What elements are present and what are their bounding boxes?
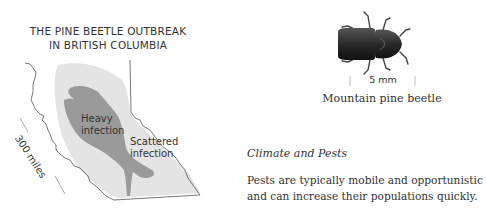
map-title-line1: THE PINE BEETLE OUTBREAK <box>28 24 188 38</box>
section-heading: Climate and Pests <box>247 147 347 160</box>
heavy-label-line2: infection <box>81 125 124 137</box>
beetle-icon <box>328 8 428 80</box>
heavy-label-line1: Heavy <box>81 113 124 125</box>
scattered-infection-label: Scattered infection <box>130 136 178 160</box>
map-title: THE PINE BEETLE OUTBREAK IN BRITISH COLU… <box>28 24 188 52</box>
scale-bar-upper <box>20 118 28 132</box>
heavy-infection-label: Heavy infection <box>81 113 124 137</box>
paragraph-line1: Pests are typically mobile and opportuni… <box>247 172 487 188</box>
scattered-label-line1: Scattered <box>130 136 178 148</box>
paragraph-line2: and can increase their populations quick… <box>247 188 487 204</box>
beetle-scale-label: 5 mm <box>352 74 414 85</box>
beetle-illustration <box>328 8 428 84</box>
body-paragraph: Pests are typically mobile and opportuni… <box>247 172 487 204</box>
scale-bar-lower <box>55 176 65 194</box>
map-graphic <box>0 55 250 218</box>
map-title-line2: IN BRITISH COLUMBIA <box>28 38 188 52</box>
scattered-label-line2: infection <box>130 148 178 160</box>
beetle-caption: Mountain pine beetle <box>312 92 452 105</box>
british-columbia-map <box>0 55 250 218</box>
